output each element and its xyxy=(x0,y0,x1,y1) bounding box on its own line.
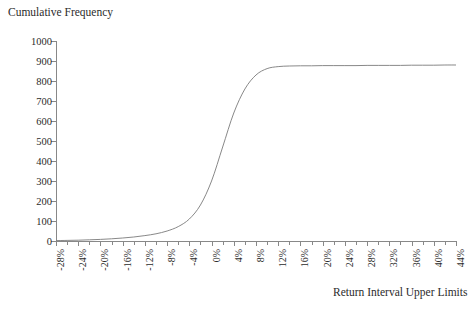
x-tick-label: -4% xyxy=(189,249,199,266)
y-tick-label: 200 xyxy=(36,196,52,207)
y-tick-label: 0 xyxy=(47,236,52,247)
x-tick-label: 36% xyxy=(412,249,422,267)
x-tick-label: 32% xyxy=(389,249,399,267)
x-tick-label: 0% xyxy=(212,249,222,262)
y-tick-label: 900 xyxy=(36,56,52,67)
cumulative-frequency-chart: Cumulative Frequency 0100200300400500600… xyxy=(0,0,471,313)
y-axis-title: Cumulative Frequency xyxy=(8,6,113,19)
y-tick-label: 500 xyxy=(36,136,52,147)
x-tick-label: 28% xyxy=(367,249,377,267)
x-tick-label: 24% xyxy=(345,249,355,267)
x-tick-label: -28% xyxy=(56,249,66,271)
x-tick-label: -20% xyxy=(100,249,110,271)
x-tick-label: 44% xyxy=(456,249,466,267)
x-tick-label: 16% xyxy=(300,249,310,267)
x-tick-label: 40% xyxy=(434,249,444,267)
y-tick-label: 300 xyxy=(36,176,52,187)
x-tick-label: 4% xyxy=(234,249,244,262)
x-tick-label: 12% xyxy=(278,249,288,267)
x-tick-label: -16% xyxy=(123,249,133,271)
y-tick-label: 400 xyxy=(36,156,52,167)
x-axis-title: Return Interval Upper Limits xyxy=(333,286,467,299)
y-tick-label: 800 xyxy=(36,76,52,87)
cumulative-frequency-curve xyxy=(56,41,456,242)
x-tick-label: 20% xyxy=(323,249,333,267)
y-tick-label: 600 xyxy=(36,116,52,127)
y-tick-label: 100 xyxy=(36,216,52,227)
x-tick-mark xyxy=(456,241,457,246)
y-tick-label: 700 xyxy=(36,96,52,107)
x-tick-label: 8% xyxy=(256,249,266,262)
y-tick-label: 1000 xyxy=(31,36,52,47)
curve-path xyxy=(56,65,456,241)
x-tick-label: -12% xyxy=(145,249,155,271)
x-tick-label: -24% xyxy=(78,249,88,271)
x-tick-label: -8% xyxy=(167,249,177,266)
